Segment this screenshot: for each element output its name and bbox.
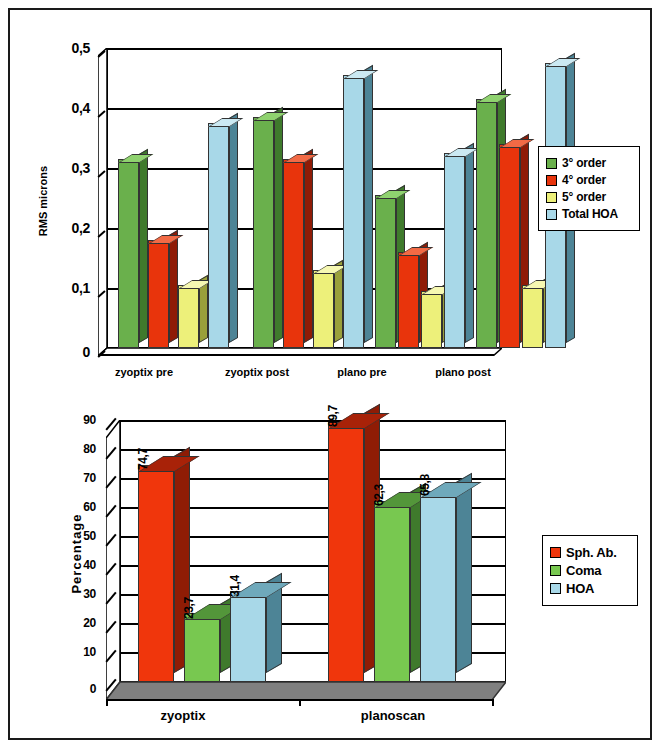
bar-side bbox=[456, 473, 472, 673]
bar-face bbox=[343, 75, 364, 348]
bar-face bbox=[178, 285, 199, 348]
percentage-xtick-label: planoscan bbox=[334, 708, 452, 723]
bar-total-hoa-plano-pre[interactable] bbox=[444, 153, 465, 348]
bar-face bbox=[208, 123, 229, 348]
rms-ytick-label: 0,4 bbox=[40, 100, 90, 116]
rms-xtick-label: zyoptix pre bbox=[88, 366, 200, 378]
rms-ytick-label: 0,3 bbox=[40, 160, 90, 176]
rms-xtick-label: plano pre bbox=[310, 366, 414, 378]
legend-swatch-blue bbox=[550, 583, 561, 594]
percentage-legend: Sph. Ab. Coma HOA bbox=[542, 535, 638, 606]
legend-label: Sph. Ab. bbox=[566, 545, 617, 560]
bar-5th-order-plano-post[interactable] bbox=[522, 285, 543, 348]
percentage-xtick-mark bbox=[492, 699, 494, 706]
bar-hoa-zyoptix[interactable] bbox=[230, 591, 266, 682]
bar-value-hoa-planoscan: 65,8 bbox=[418, 474, 432, 496]
bar-4th-order-zyoptix-post[interactable] bbox=[283, 159, 304, 348]
rms-gridline bbox=[107, 48, 502, 50]
bar-face bbox=[230, 591, 266, 682]
bar-4th-order-zyoptix-pre[interactable] bbox=[148, 240, 169, 348]
percentage-chart-panel: Percentage bbox=[10, 386, 654, 738]
bar-face bbox=[398, 252, 419, 348]
legend-label: Total HOA bbox=[562, 207, 618, 221]
bar-side bbox=[304, 149, 313, 343]
bar-face bbox=[283, 159, 304, 348]
bar-side bbox=[274, 107, 283, 343]
legend-item-4th-order[interactable]: 4° order bbox=[546, 173, 632, 187]
percentage-gridline bbox=[120, 449, 506, 451]
percentage-ytick-label: 40 bbox=[52, 558, 96, 572]
bar-face bbox=[374, 501, 410, 682]
bar-total-hoa-zyoptix-post[interactable] bbox=[343, 75, 364, 348]
bar-value-hoa-zyoptix: 31,4 bbox=[228, 575, 242, 597]
legend-label: 5° order bbox=[562, 190, 606, 204]
bar-sph-ab-zyoptix[interactable] bbox=[138, 465, 174, 682]
bar-total-hoa-zyoptix-pre[interactable] bbox=[208, 123, 229, 348]
bar-face bbox=[476, 99, 497, 348]
legend-item-coma[interactable]: Coma bbox=[550, 563, 630, 578]
percentage-ytick-label: 0 bbox=[52, 682, 96, 696]
legend-swatch-red bbox=[546, 175, 557, 186]
legend-item-5th-order[interactable]: 5° order bbox=[546, 190, 632, 204]
legend-swatch-red bbox=[550, 547, 561, 558]
bar-value-coma-planoscan: 62,3 bbox=[372, 484, 386, 506]
percentage-xtick-mark bbox=[299, 699, 301, 706]
rms-ytick-label: 0,1 bbox=[40, 280, 90, 296]
percentage-ytick-label: 30 bbox=[52, 587, 96, 601]
bar-value-sph-ab-planoscan: 89,7 bbox=[326, 405, 340, 427]
legend-swatch-blue bbox=[546, 209, 557, 220]
percentage-ytick-label: 60 bbox=[52, 500, 96, 514]
percentage-ytick-label: 20 bbox=[52, 616, 96, 630]
percentage-ytick-label: 80 bbox=[52, 442, 96, 456]
bar-coma-zyoptix[interactable] bbox=[184, 613, 220, 682]
legend-swatch-yellow bbox=[546, 192, 557, 203]
bar-face bbox=[522, 285, 543, 348]
legend-item-sph-ab[interactable]: Sph. Ab. bbox=[550, 545, 630, 560]
legend-item-hoa[interactable]: HOA bbox=[550, 581, 630, 596]
rms-legend: 3° order 4° order 5° order Total HOA bbox=[538, 146, 640, 231]
bar-hoa-planoscan[interactable] bbox=[420, 491, 456, 682]
bar-5th-order-zyoptix-post[interactable] bbox=[313, 270, 334, 348]
percentage-gridline bbox=[120, 420, 506, 422]
bar-3rd-order-zyoptix-post[interactable] bbox=[253, 117, 274, 348]
bar-value-coma-zyoptix: 23,7 bbox=[182, 597, 196, 619]
figure-frame: RMS microns bbox=[8, 8, 652, 740]
bar-3rd-order-zyoptix-pre[interactable] bbox=[118, 159, 139, 348]
rms-ytick-label: 0,5 bbox=[40, 40, 90, 56]
bar-face bbox=[118, 159, 139, 348]
legend-item-total-hoa[interactable]: Total HOA bbox=[546, 207, 632, 221]
rms-ytick-label: 0 bbox=[40, 344, 90, 360]
bar-face bbox=[328, 422, 364, 682]
legend-swatch-green bbox=[550, 565, 561, 576]
legend-label: HOA bbox=[566, 581, 594, 596]
rms-ytick-label: 0,2 bbox=[40, 220, 90, 236]
legend-item-3rd-order[interactable]: 3° order bbox=[546, 156, 632, 170]
bar-face bbox=[253, 117, 274, 348]
bar-side bbox=[465, 143, 474, 343]
bar-5th-order-plano-pre[interactable] bbox=[421, 291, 442, 348]
percentage-xtick-label: zyoptix bbox=[130, 708, 236, 723]
bar-5th-order-zyoptix-pre[interactable] bbox=[178, 285, 199, 348]
percentage-xtick-mark bbox=[106, 699, 108, 706]
bar-coma-planoscan[interactable] bbox=[374, 501, 410, 682]
bar-side bbox=[364, 65, 373, 343]
bar-face bbox=[420, 491, 456, 682]
bar-4th-order-plano-pre[interactable] bbox=[398, 252, 419, 348]
bar-face bbox=[184, 613, 220, 682]
legend-label: 3° order bbox=[562, 156, 606, 170]
rms-x-axis bbox=[98, 354, 494, 356]
bar-face bbox=[148, 240, 169, 348]
bar-face bbox=[375, 195, 396, 348]
rms-plot-area bbox=[98, 48, 502, 356]
bar-sph-ab-planoscan[interactable] bbox=[328, 422, 364, 682]
rms-xtick-label: zyoptix post bbox=[198, 366, 316, 378]
rms-gridline bbox=[107, 108, 502, 110]
bar-face bbox=[499, 144, 520, 348]
bar-face bbox=[444, 153, 465, 348]
rms-xtick-label: plano post bbox=[408, 366, 518, 378]
legend-swatch-green bbox=[546, 158, 557, 169]
bar-3rd-order-plano-post[interactable] bbox=[476, 99, 497, 348]
bar-3rd-order-plano-pre[interactable] bbox=[375, 195, 396, 348]
percentage-ytick-label: 10 bbox=[52, 645, 96, 659]
bar-4th-order-plano-post[interactable] bbox=[499, 144, 520, 348]
